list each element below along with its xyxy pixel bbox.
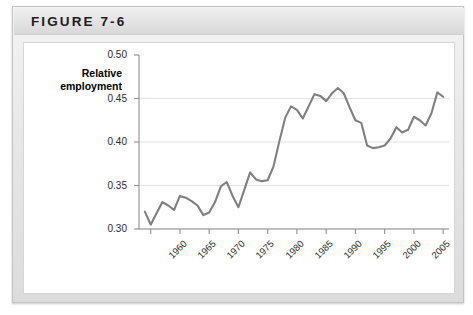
y-axis-tick-label: 0.45 — [97, 94, 127, 104]
axis-ticks-group — [134, 55, 443, 234]
y-axis-tick-label: 0.50 — [97, 50, 127, 60]
gridlines-group — [139, 99, 449, 230]
chart-panel: Relative employment 0.500.450.400.350.30… — [23, 42, 455, 294]
data-series-line — [145, 88, 443, 225]
y-axis-tick-label: 0.35 — [97, 181, 127, 191]
figure-frame: FIGURE 7-6 Relative employment 0.500.450… — [12, 6, 464, 303]
figure-header-banner: FIGURE 7-6 — [14, 8, 464, 35]
line-chart-plot — [24, 43, 455, 294]
y-axis-tick-label: 0.40 — [97, 137, 127, 147]
figure-title: FIGURE 7-6 — [31, 14, 126, 29]
y-axis-tick-label: 0.30 — [97, 224, 127, 234]
